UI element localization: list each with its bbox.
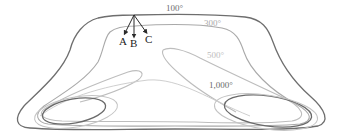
isotherm-diagram: A B C 100° 300° 500° 1,000° [0, 0, 341, 139]
arrow-c [134, 15, 146, 32]
arrow-a [125, 15, 134, 33]
contour-500-left [41, 71, 195, 122]
contour-1000-left [40, 94, 107, 129]
contour-100 [17, 14, 325, 129]
label-500: 500° [207, 50, 225, 60]
label-1000: 1,000° [209, 80, 233, 90]
label-b: B [130, 37, 137, 49]
label-a: A [119, 35, 127, 47]
label-100: 100° [166, 3, 184, 13]
contour-300 [38, 25, 310, 126]
label-c: C [145, 33, 152, 45]
label-300: 300° [204, 18, 222, 28]
